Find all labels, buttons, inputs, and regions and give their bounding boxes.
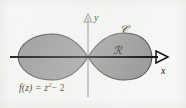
function-label-rhs: − 2 bbox=[52, 83, 65, 93]
y-axis-label: y bbox=[94, 13, 98, 23]
curve-label-c: 𝒞 bbox=[120, 24, 128, 35]
function-label-lhs: f(z) = z bbox=[19, 83, 48, 93]
x-axis-label: x bbox=[161, 66, 165, 76]
function-label: f(z) = z2− 2 bbox=[19, 82, 65, 94]
region-label-r: ℛ bbox=[113, 45, 122, 56]
lemniscate-figure: y x 𝒞 ℛ f(z) = z2− 2 bbox=[0, 0, 186, 108]
